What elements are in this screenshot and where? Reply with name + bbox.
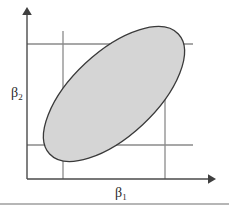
confidence-ellipse-group (21, 3, 207, 184)
figure-container: β2 β1 (0, 0, 229, 213)
y-axis-label-symbol: β (11, 85, 18, 100)
y-axis-label-subscript: 2 (18, 92, 23, 102)
confidence-region-ellipse (21, 3, 207, 184)
x-axis-arrow-icon (208, 174, 216, 184)
confidence-region-figure: β2 β1 (0, 0, 229, 213)
x-axis-label-subscript: 1 (122, 192, 127, 202)
y-axis-label: β2 (11, 85, 23, 102)
x-axis-label: β1 (115, 185, 127, 202)
x-axis-label-symbol: β (115, 185, 122, 200)
y-axis-arrow-icon (22, 7, 32, 15)
